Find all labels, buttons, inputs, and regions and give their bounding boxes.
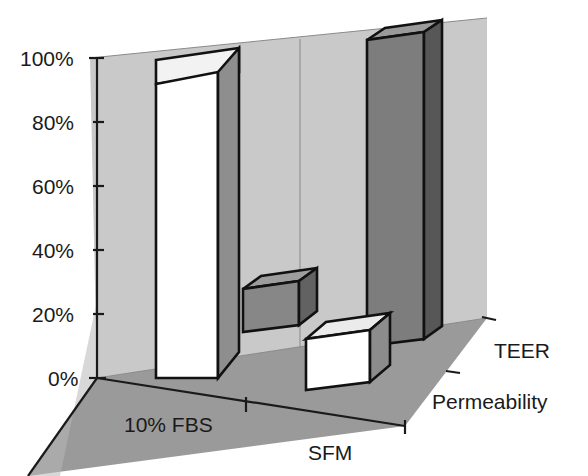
category-label-sfm: SFM <box>308 441 352 464</box>
bar-side-face <box>218 48 239 378</box>
y-tick-label-40: 40% <box>32 239 74 262</box>
chart-canvas: 100% 80% 60% 40% 20% 0% 10% FBS SFM TEER… <box>0 0 588 476</box>
bar-front-face <box>306 330 370 390</box>
series-label-teer: TEER <box>494 339 550 362</box>
bar-front-face <box>367 32 424 346</box>
bar-front-face <box>243 281 299 332</box>
y-tick-label-80: 80% <box>32 111 74 134</box>
bar-front-face <box>156 72 218 378</box>
chart-3d-bar: 100% 80% 60% 40% 20% 0% 10% FBS SFM TEER… <box>0 0 588 476</box>
bar-teer-sfm[interactable] <box>367 20 442 346</box>
depth-tick-1 <box>446 371 460 373</box>
category-label-10pct-fbs: 10% FBS <box>124 413 213 436</box>
bar-teer-10pct-fbs[interactable] <box>156 48 239 378</box>
series-label-permeability: Permeability <box>432 390 548 413</box>
y-tick-label-60: 60% <box>32 175 74 198</box>
y-tick-label-100: 100% <box>20 47 74 70</box>
y-tick-label-0: 0% <box>48 367 78 390</box>
y-tick-label-20: 20% <box>32 303 74 326</box>
bar-side-face <box>424 20 442 339</box>
y-tick-labels: 100% 80% 60% 40% 20% 0% <box>20 47 78 390</box>
